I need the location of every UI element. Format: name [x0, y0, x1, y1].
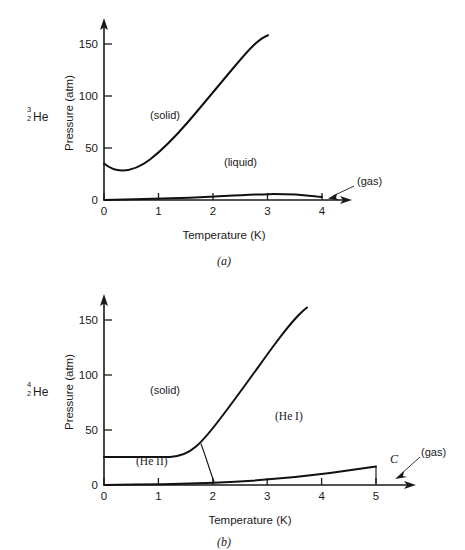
chart-helium-4: 4 2 He 0 50 100: [0, 272, 465, 550]
isotope-element-symbol: He: [33, 110, 49, 124]
y-tick-label: 50: [85, 142, 98, 154]
region-label-he-one: (He I): [275, 410, 303, 423]
vapor-pressure-curve-liquid-gas: [104, 467, 376, 486]
isotope-atomic-number: 2: [27, 389, 31, 398]
helium-phase-diagram-figure: 3 2 He 0 50 100: [0, 0, 465, 550]
isotope-mass-number: 4: [27, 380, 31, 389]
critical-point-label: C: [390, 452, 399, 466]
y-tick-label: 100: [79, 369, 98, 381]
x-tick-label: 4: [318, 490, 325, 502]
panel-helium-3: 3 2 He 0 50 100: [0, 0, 465, 275]
y-axis-title: Pressure (atm): [63, 75, 75, 151]
y-tick-label: 150: [79, 38, 98, 50]
melting-curve-solid-liquid: [104, 35, 268, 170]
region-label-solid: (solid): [150, 109, 180, 121]
y-tick-label: 100: [79, 90, 98, 102]
isotope-element-symbol: He: [33, 385, 49, 399]
x-tick-label: 3: [264, 490, 270, 502]
y-axis: [100, 18, 108, 200]
x-tick-label: 1: [155, 205, 161, 217]
y-axis-ticks: 0 50 100 150: [79, 314, 112, 491]
y-tick-label: 150: [79, 314, 98, 326]
gas-leader-arrowhead: [395, 471, 407, 479]
x-tick-label: 0: [101, 490, 107, 502]
x-tick-label: 1: [155, 490, 161, 502]
y-axis-title: Pressure (atm): [63, 354, 75, 430]
isotope-label-helium-4: 4 2 He: [27, 380, 49, 399]
lambda-line-he1-he2: [201, 444, 214, 482]
region-label-solid: (solid): [150, 384, 180, 396]
panel-helium-4: 4 2 He 0 50 100: [0, 272, 465, 550]
x-tick-label: 0: [101, 205, 107, 217]
y-tick-label: 0: [92, 194, 98, 206]
region-label-liquid: (liquid): [224, 156, 257, 168]
gas-annotation: (gas): [328, 175, 382, 201]
x-axis-title: Temperature (K): [182, 229, 265, 241]
x-tick-label: 4: [319, 205, 326, 217]
x-tick-label: 5: [373, 490, 379, 502]
isotope-label-helium-3: 3 2 He: [27, 105, 49, 124]
panel-caption-a: (a): [217, 254, 231, 268]
x-tick-label: 2: [210, 205, 216, 217]
x-axis-title: Temperature (K): [208, 514, 291, 526]
chart-helium-3: 3 2 He 0 50 100: [0, 0, 465, 275]
region-label-gas: (gas): [357, 175, 382, 187]
y-tick-label: 0: [92, 479, 98, 491]
panel-caption-b: (b): [217, 535, 231, 549]
region-label-gas: (gas): [421, 446, 446, 458]
isotope-mass-number: 3: [27, 105, 31, 114]
melting-curve-solid-liquid: [104, 308, 307, 458]
x-tick-label: 2: [210, 490, 216, 502]
region-label-he-two: (He II): [136, 455, 168, 468]
isotope-atomic-number: 2: [27, 114, 31, 123]
gas-annotation: (gas): [395, 446, 446, 479]
x-tick-label: 3: [264, 205, 270, 217]
y-axis-ticks: 0 50 100 150: [79, 38, 112, 206]
y-tick-label: 50: [85, 424, 98, 436]
